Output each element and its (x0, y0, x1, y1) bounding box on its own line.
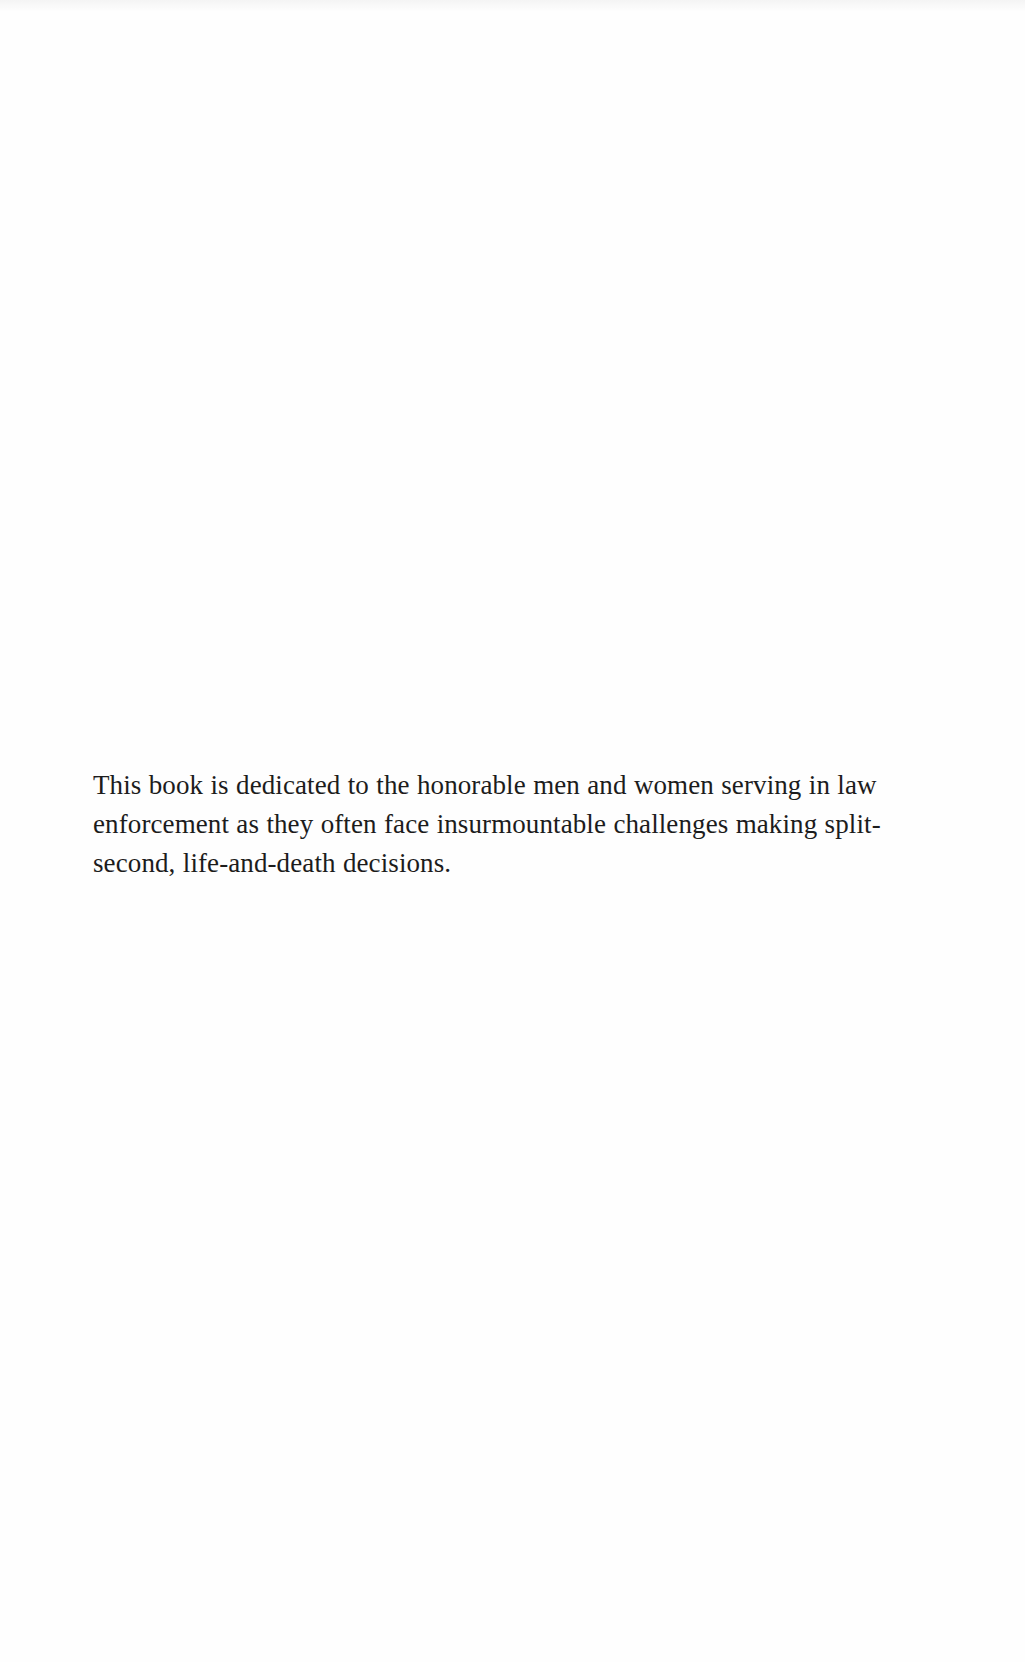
book-page: This book is dedicated to the honorable … (0, 0, 1025, 1662)
scan-bleed-through (0, 0, 1025, 12)
dedication-line-3: second, life-and-death decisions. (93, 844, 953, 883)
dedication-line-1: This book is dedicated to the honorable … (93, 766, 953, 805)
dedication-text: This book is dedicated to the honorable … (93, 766, 953, 883)
dedication-line-2: enforcement as they often face insurmoun… (93, 805, 953, 844)
